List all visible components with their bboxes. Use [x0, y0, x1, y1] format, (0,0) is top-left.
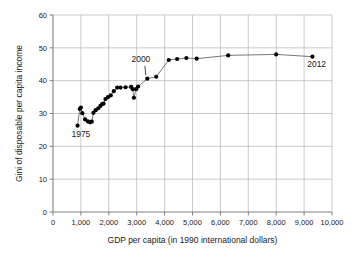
annotation-label: 2000	[131, 54, 150, 64]
y-tick-label: 60	[39, 11, 47, 20]
x-tick-label: 4,000	[155, 218, 174, 227]
data-point	[75, 124, 79, 128]
annotation-label: 2012	[307, 59, 326, 69]
data-point	[123, 85, 127, 89]
x-tick-label: 3,000	[127, 218, 146, 227]
y-tick-label: 20	[39, 142, 47, 151]
x-tick-label: 9,000	[295, 218, 314, 227]
x-tick-label: 10,000	[321, 218, 344, 227]
data-point	[195, 57, 199, 61]
data-point	[274, 52, 278, 56]
data-point	[167, 58, 171, 62]
x-tick-label: 1,000	[72, 218, 91, 227]
x-tick-label: 7,000	[239, 218, 258, 227]
x-axis-title: GDP per capita (in 1990 international do…	[108, 235, 278, 245]
data-point	[132, 96, 136, 100]
data-point	[226, 53, 230, 57]
data-point	[101, 102, 105, 106]
gini-vs-gdp-scatter-chart: 01,0002,0003,0004,0005,0006,0007,0008,00…	[0, 0, 355, 257]
data-point	[112, 89, 116, 93]
data-point	[175, 57, 179, 61]
y-tick-label: 40	[39, 76, 47, 85]
y-tick-label: 0	[43, 208, 47, 217]
x-tick-label: 5,000	[183, 218, 202, 227]
data-point	[145, 77, 149, 81]
data-point	[109, 93, 113, 97]
chart-container: 01,0002,0003,0004,0005,0006,0007,0008,00…	[0, 0, 355, 257]
data-point	[136, 84, 140, 88]
data-point	[184, 56, 188, 60]
y-tick-label: 10	[39, 175, 47, 184]
x-tick-label: 8,000	[267, 218, 286, 227]
data-point	[90, 120, 94, 124]
data-point	[154, 75, 158, 79]
y-tick-label: 50	[39, 44, 47, 53]
data-point	[118, 85, 122, 89]
x-tick-label: 6,000	[211, 218, 230, 227]
data-point	[79, 105, 83, 109]
annotation-label: 1975	[71, 129, 90, 139]
x-tick-label: 2,000	[99, 218, 118, 227]
x-tick-label: 0	[51, 218, 55, 227]
data-point	[80, 111, 84, 115]
y-tick-label: 30	[39, 109, 47, 118]
y-axis-title: Gini of disposable per capita income	[14, 45, 24, 182]
